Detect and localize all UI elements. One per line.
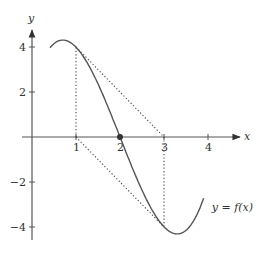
x-axis-label: x [244,130,251,143]
y-tick-label: 4 [19,41,26,54]
root-point [117,134,123,140]
y-tick-label: −2 [10,176,26,189]
x-tick-label: 1 [73,141,80,154]
dotted-secant-line [76,47,164,137]
x-tick-label: 4 [205,141,212,154]
y-tick-label: 2 [19,86,26,99]
curve-label: y = f(x) [211,201,253,214]
function-plot: x y 1234 42−2−4 y = f(x) [0,0,256,255]
chart-figure: x y 1234 42−2−4 y = f(x) [0,0,256,255]
y-axis-label: y [27,12,35,25]
y-tick-label: −4 [10,221,26,234]
